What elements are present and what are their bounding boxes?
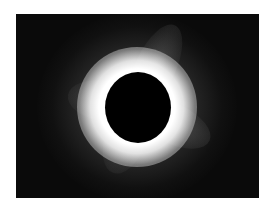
moon-disk	[105, 72, 171, 143]
eclipse-photo	[16, 14, 259, 198]
